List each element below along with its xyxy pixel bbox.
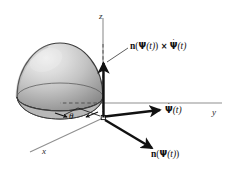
cross-arg2: (t)	[177, 41, 186, 51]
leader-line-cross-product	[107, 48, 128, 62]
cross-psidot-group: ˙Ψ	[170, 42, 178, 52]
cross-psidot-dot: ˙	[172, 38, 175, 47]
cross-arg: (t)	[146, 41, 155, 51]
normal-close-paren: )	[176, 149, 179, 159]
cross-product-symbol: ×	[161, 42, 168, 51]
axis-label-x: x	[42, 147, 46, 156]
hemisphere-dome	[17, 43, 103, 111]
cross-close-paren: )	[155, 41, 158, 51]
psidot-dot: ˙	[167, 102, 170, 111]
psidot-group: ˙Ψ	[165, 106, 173, 116]
normal-arg: (t)	[167, 149, 176, 159]
diagram-svg	[0, 0, 228, 176]
axis-label-z: z	[99, 12, 103, 21]
vector-label-psi-dot: ˙Ψ(t)	[165, 106, 182, 116]
angle-label-theta: θ	[69, 112, 73, 121]
figure-canvas: z y x θ n(Ψ(t)) × ˙Ψ(t) ˙Ψ(t) n(Ψ(t))	[0, 0, 228, 176]
cross-psi-glyph: Ψ	[138, 41, 146, 51]
vector-label-surface-normal: n(Ψ(t))	[151, 150, 179, 160]
vector-surface-normal	[105, 120, 152, 148]
vector-label-cross-product: n(Ψ(t)) × ˙Ψ(t)	[130, 42, 186, 52]
vector-psi-dot	[105, 110, 160, 117]
axis-label-y: y	[212, 108, 216, 117]
normal-psi-glyph: Ψ	[159, 149, 167, 159]
psidot-arg: (t)	[173, 105, 182, 115]
